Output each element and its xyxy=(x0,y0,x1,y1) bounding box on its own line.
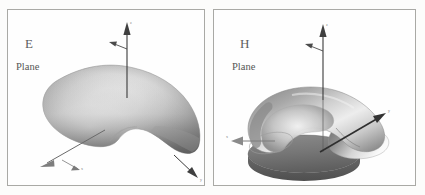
h-axis-right-tag: y xyxy=(388,108,390,113)
e-plane-word-label: Plane xyxy=(16,61,39,72)
panel-e-plane xyxy=(7,9,205,186)
h-axis-left-tag: x xyxy=(226,134,228,139)
h-axis-vertical-tag: z xyxy=(326,22,328,27)
e-plane-code-label: E xyxy=(25,36,33,52)
h-plane-code-label: H xyxy=(240,36,250,52)
e-axis-right-tag: y xyxy=(200,177,202,182)
radiation-pattern-figure: E Plane H Plane z x y z x y xyxy=(0,0,425,195)
e-axis-left-tag: x xyxy=(81,166,83,171)
h-plane-word-label: Plane xyxy=(232,61,255,72)
e-axis-vertical-tag: z xyxy=(130,20,132,25)
